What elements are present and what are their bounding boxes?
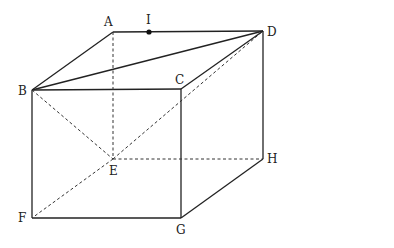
vertex-label-b: B: [18, 84, 27, 98]
edge-bc: [32, 89, 181, 90]
edge-ad: [113, 31, 263, 32]
vertex-label-e: E: [109, 164, 118, 178]
vertex-label-g: G: [176, 223, 186, 237]
marked-points: [146, 29, 151, 34]
edge-ef: [32, 159, 113, 218]
vertex-label-f: F: [18, 211, 26, 225]
dashed-edges: [32, 31, 263, 218]
vertex-label-c: C: [175, 73, 184, 87]
cube-diagram: A I D B C E H F G: [0, 0, 394, 248]
edge-gh: [181, 159, 263, 218]
solid-edges: [32, 31, 263, 218]
vertex-label-d: D: [267, 25, 277, 39]
point-label-i: I: [146, 13, 151, 27]
vertex-label-h: H: [267, 152, 277, 166]
edge-cd: [181, 31, 263, 89]
edge-be: [32, 90, 113, 159]
point-i-dot: [146, 29, 151, 34]
edge-bd: [32, 31, 263, 90]
edge-ab: [32, 32, 113, 90]
vertex-label-a: A: [103, 15, 113, 29]
vertex-labels: A I D B C E H F G: [18, 13, 277, 237]
